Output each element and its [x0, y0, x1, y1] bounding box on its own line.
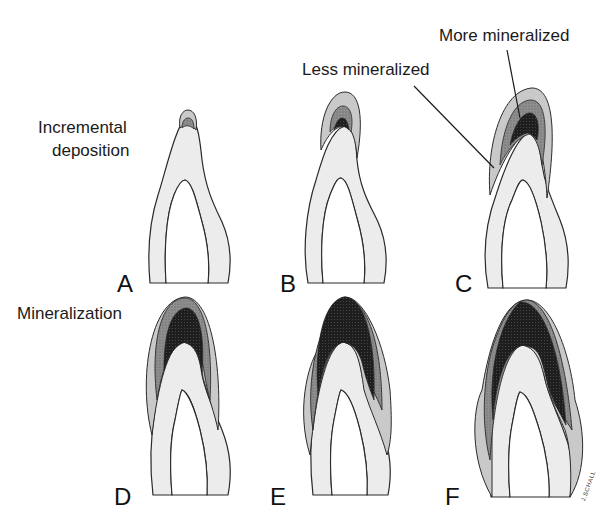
tooth-panel-f: [475, 300, 583, 497]
tooth-panel-a: [149, 110, 230, 283]
tooth-panel-c: [414, 50, 568, 288]
label-less-mineralized: Less mineralized: [302, 60, 430, 80]
panel-letter-d: D: [114, 485, 131, 509]
label-incremental-deposition-line2: deposition: [52, 141, 130, 161]
panel-letter-b: B: [280, 272, 296, 296]
label-mineralization: Mineralization: [17, 304, 122, 324]
label-more-mineralized: More mineralized: [439, 26, 569, 46]
tooth-panel-d: [146, 297, 230, 495]
tooth-panel-b: [305, 92, 386, 283]
panel-letter-e: E: [270, 485, 286, 509]
label-incremental-deposition-line1: Incremental: [38, 118, 127, 138]
panel-letter-c: C: [455, 272, 472, 296]
panel-letter-a: A: [117, 272, 133, 296]
panel-letter-f: F: [445, 485, 460, 509]
tooth-panel-e: [304, 297, 392, 495]
leader-less-mineralized: [414, 86, 494, 168]
